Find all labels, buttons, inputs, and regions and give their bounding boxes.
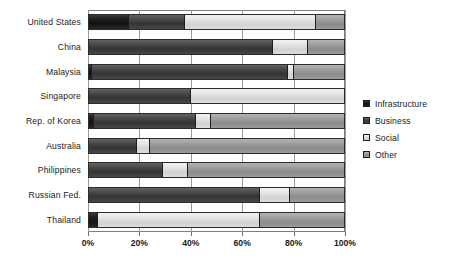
chart-legend: InfrastructureBusinessSocialOther [363, 95, 453, 163]
legend-swatch-icon [363, 117, 370, 124]
legend-swatch-icon [363, 151, 370, 158]
legend-swatch-icon [363, 134, 370, 141]
x-tick-label: 100% [334, 238, 356, 248]
bar-segment-other [294, 65, 344, 79]
category-label-thailand: Thailand [47, 215, 81, 225]
stacked-bar [88, 113, 345, 129]
legend-item-other[interactable]: Other [363, 146, 453, 163]
bar-segment-other [188, 163, 344, 177]
bar-segment-business [129, 15, 186, 29]
gridline [345, 10, 346, 232]
stacked-bar [88, 64, 345, 80]
bar-segment-business [94, 114, 196, 128]
category-label-china: China [58, 42, 81, 52]
x-axis: 0%20%40%60%80%100% [88, 232, 345, 256]
stacked-bar [88, 39, 345, 55]
bar-segment-business [89, 89, 191, 103]
bar-segment-business [92, 65, 288, 79]
bar-segment-other [260, 213, 344, 227]
bar-segment-social [137, 139, 150, 153]
bar-segment-business [89, 163, 163, 177]
x-tick [139, 232, 140, 236]
legend-label: Infrastructure [375, 99, 427, 109]
category-label-russian-fed: Russian Fed. [29, 190, 81, 200]
category-label-australia: Australia [46, 141, 81, 151]
bar-segment-business [89, 40, 273, 54]
x-tick-label: 20% [131, 238, 148, 248]
category-label-malaysia: Malaysia [46, 67, 81, 77]
bar-segment-other [211, 114, 344, 128]
bar-row-thailand: Thailand [88, 212, 345, 228]
legend-label: Social [375, 133, 399, 143]
stacked-bar [88, 88, 345, 104]
bar-segment-social [191, 89, 344, 103]
plot-area: United StatesChinaMalaysiaSingaporeRep. … [88, 10, 345, 232]
bar-row-russian-fed: Russian Fed. [88, 187, 345, 203]
legend-item-business[interactable]: Business [363, 112, 453, 129]
category-label-philippines: Philippines [38, 165, 81, 175]
bar-row-malaysia: Malaysia [88, 64, 345, 80]
stacked-bar-chart: United StatesChinaMalaysiaSingaporeRep. … [0, 0, 454, 259]
bar-segment-business [89, 188, 260, 202]
bar-segment-social [260, 188, 291, 202]
x-tick [88, 232, 89, 236]
stacked-bar [88, 162, 345, 178]
bar-row-singapore: Singapore [88, 88, 345, 104]
stacked-bar [88, 212, 345, 228]
category-label-singapore: Singapore [40, 91, 81, 101]
x-tick-label: 0% [82, 238, 94, 248]
legend-item-social[interactable]: Social [363, 129, 453, 146]
bar-segment-infrastructure [89, 15, 129, 29]
legend-label: Business [375, 116, 411, 126]
bar-row-australia: Australia [88, 138, 345, 154]
x-tick-label: 60% [234, 238, 251, 248]
legend-label: Other [375, 150, 397, 160]
bar-segment-social [98, 213, 260, 227]
legend-item-infrastructure[interactable]: Infrastructure [363, 95, 453, 112]
bar-rows: United StatesChinaMalaysiaSingaporeRep. … [88, 10, 345, 232]
category-label-united-states: United States [27, 17, 81, 27]
bar-segment-other [316, 15, 344, 29]
bar-segment-business [89, 139, 137, 153]
x-tick [242, 232, 243, 236]
stacked-bar [88, 14, 345, 30]
bar-segment-other [308, 40, 344, 54]
x-tick-label: 40% [182, 238, 199, 248]
x-tick [345, 232, 346, 236]
x-tick-label: 80% [285, 238, 302, 248]
stacked-bar [88, 138, 345, 154]
x-tick [191, 232, 192, 236]
bar-segment-infrastructure [89, 213, 98, 227]
bar-row-china: China [88, 39, 345, 55]
bar-row-philippines: Philippines [88, 162, 345, 178]
bar-segment-social [273, 40, 309, 54]
bar-segment-other [290, 188, 344, 202]
legend-swatch-icon [363, 100, 370, 107]
bar-segment-social [196, 114, 211, 128]
bar-row-rep-of-korea: Rep. of Korea [88, 113, 345, 129]
category-label-rep-of-korea: Rep. of Korea [26, 116, 81, 126]
x-tick [294, 232, 295, 236]
bar-row-united-states: United States [88, 14, 345, 30]
stacked-bar [88, 187, 345, 203]
bar-segment-social [185, 15, 316, 29]
bar-segment-social [163, 163, 189, 177]
bar-segment-other [150, 139, 344, 153]
